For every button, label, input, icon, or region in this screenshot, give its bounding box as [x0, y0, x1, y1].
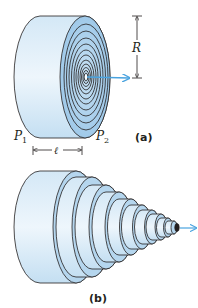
panel-b-label: (b) — [89, 292, 107, 305]
panel-a: R P1 P2 ℓ (a) — [13, 16, 152, 156]
pressure-p2-label: P2 — [95, 129, 109, 145]
length-label: ℓ — [54, 145, 58, 156]
flow-arrow-a — [87, 77, 129, 78]
panel-a-label: (a) — [135, 131, 152, 144]
lamina-core — [175, 224, 179, 232]
panel-b — [14, 171, 179, 283]
pressure-p1-label: P1 — [13, 129, 27, 145]
center-core — [85, 75, 87, 80]
poiseuille-flow-diagram: R P1 P2 ℓ (a) — [0, 0, 198, 308]
radius-label: R — [131, 41, 141, 55]
